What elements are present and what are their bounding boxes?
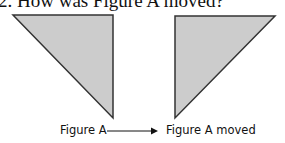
figure-a-moved-label: Figure A moved: [166, 123, 256, 137]
figure-diagram: [0, 0, 285, 143]
figure-a-label: Figure A: [60, 123, 107, 137]
right-arrow-icon: [107, 128, 158, 135]
figure-a-moved-triangle: [175, 16, 275, 118]
figure-a-triangle: [13, 15, 113, 118]
